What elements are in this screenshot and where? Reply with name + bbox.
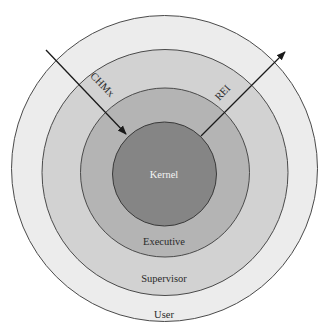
supervisor-label: Supervisor xyxy=(141,273,187,284)
user-label: User xyxy=(154,309,174,320)
kernel-label: Kernel xyxy=(150,169,179,180)
executive-label: Executive xyxy=(143,236,185,247)
access-mode-rings-diagram: CHMx REI Kernel Executive Supervisor Use… xyxy=(0,0,326,336)
